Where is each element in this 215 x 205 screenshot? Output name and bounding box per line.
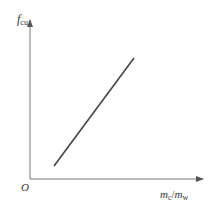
data-line: [54, 58, 134, 166]
origin-label: O: [21, 181, 29, 193]
line-chart: [0, 0, 215, 205]
x-axis-label: mc/mw: [160, 188, 188, 202]
y-axis-label: fcu: [17, 12, 28, 27]
